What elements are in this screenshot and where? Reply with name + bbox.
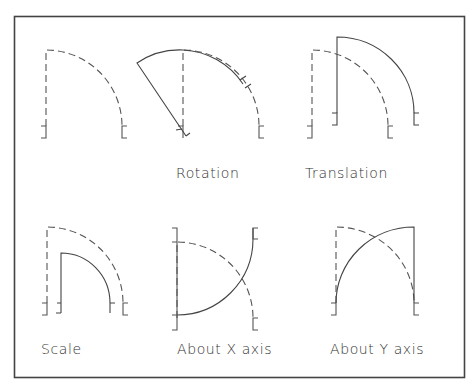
label-rotation: Rotation — [176, 165, 239, 181]
label-about-y-axis: About Y axis — [330, 341, 424, 357]
jamb-left — [331, 303, 336, 315]
jamb-right — [253, 228, 258, 330]
translated-door-swing — [337, 37, 414, 113]
jamb-right — [388, 126, 393, 138]
mirrored-door-swing — [336, 227, 414, 303]
mirrored-door-swing — [177, 228, 253, 315]
jamb-left — [41, 126, 46, 138]
original-door-swing — [46, 50, 122, 126]
jamb-right — [259, 126, 264, 138]
jamb-left — [42, 303, 47, 315]
rotated-door-swing — [137, 50, 243, 136]
jamb-left — [307, 126, 312, 138]
panel-scale — [42, 227, 128, 315]
scaled-jamb-right — [110, 303, 115, 313]
translated-jamb-right — [414, 113, 419, 125]
jamb-left — [172, 228, 177, 330]
panel-original — [41, 50, 127, 138]
label-scale: Scale — [41, 341, 82, 357]
original-door-swing — [336, 227, 414, 303]
jamb-right — [414, 303, 419, 315]
original-door-swing — [312, 50, 388, 126]
label-translation: Translation — [305, 165, 388, 181]
panel-about-y-axis — [331, 227, 419, 315]
panel-translation — [307, 37, 419, 138]
translated-jamb-left — [332, 113, 337, 125]
original-door-swing — [47, 227, 123, 303]
label-about-x-axis: About X axis — [177, 341, 272, 357]
jamb-right — [122, 126, 127, 138]
panel-about-x-axis — [172, 228, 258, 330]
jamb-right — [123, 303, 128, 315]
panel-rotation — [137, 50, 264, 138]
scaled-jamb-left — [56, 303, 61, 313]
scaled-door-swing — [61, 253, 110, 313]
transformations-diagram: Rotation Translation Scale About X axis … — [0, 0, 474, 390]
original-door-swing — [183, 50, 259, 126]
drawing-frame — [15, 17, 465, 378]
